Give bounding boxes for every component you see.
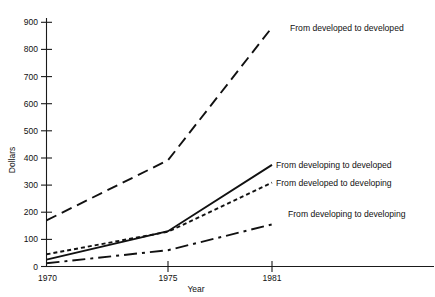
series-line-developing-to-developing bbox=[47, 224, 273, 263]
y-tick-label-900: 900 bbox=[24, 17, 38, 27]
y-axis-title: Dollars bbox=[7, 147, 17, 173]
y-tick-label-0: 0 bbox=[33, 262, 38, 272]
y-tick-label-400: 400 bbox=[24, 153, 38, 163]
y-tick-label-500: 500 bbox=[24, 126, 38, 136]
x-tick-label-1970: 1970 bbox=[38, 273, 57, 283]
y-tick-label-100: 100 bbox=[24, 234, 38, 244]
series-line-developed-to-developing bbox=[47, 183, 273, 255]
series-label-developing-to-developed: From developing to developed bbox=[276, 160, 392, 170]
series-line-developing-to-developed bbox=[47, 165, 273, 260]
x-axis-tick-labels: 1970 1975 1981 bbox=[38, 273, 282, 283]
series-label-developed-to-developing: From developed to developing bbox=[276, 178, 392, 188]
x-tick-label-1975: 1975 bbox=[159, 273, 178, 283]
y-tick-label-600: 600 bbox=[24, 99, 38, 109]
series-line-developed-to-developed bbox=[47, 27, 273, 220]
y-tick-label-200: 200 bbox=[24, 207, 38, 217]
y-tick-label-800: 800 bbox=[24, 44, 38, 54]
line-chart: 0 100 200 300 400 500 600 700 800 900 19… bbox=[0, 0, 435, 297]
y-tick-label-700: 700 bbox=[24, 72, 38, 82]
chart-container: 0 100 200 300 400 500 600 700 800 900 19… bbox=[0, 0, 435, 297]
y-tick-label-300: 300 bbox=[24, 180, 38, 190]
x-tick-label-1981: 1981 bbox=[263, 273, 282, 283]
x-axis-title: Year bbox=[187, 284, 204, 294]
series-label-developed-to-developed: From developed to developed bbox=[290, 23, 404, 33]
series-label-developing-to-developing: From developing to developing bbox=[288, 209, 406, 219]
y-axis-tick-labels: 0 100 200 300 400 500 600 700 800 900 bbox=[24, 17, 38, 271]
